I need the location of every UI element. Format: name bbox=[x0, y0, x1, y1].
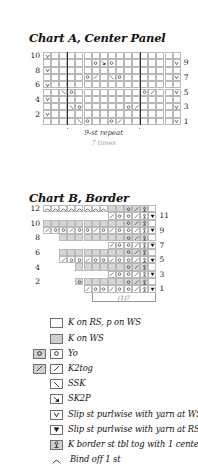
chart-cell-k bbox=[100, 81, 108, 88]
chart-cell-none bbox=[51, 278, 59, 285]
chart-cell-k bbox=[43, 118, 51, 125]
chart-cell-sk2p bbox=[100, 59, 108, 66]
chart-cell-k bbox=[51, 103, 59, 110]
chart-cell-kws bbox=[84, 234, 92, 241]
chart-cell-k bbox=[43, 103, 51, 110]
cell-symbol-yo bbox=[117, 286, 123, 291]
chart-cell-none bbox=[67, 285, 75, 292]
cell-symbol-sk2p bbox=[101, 60, 107, 65]
chart-cell-k2tog bbox=[132, 220, 140, 227]
cell-symbol-yo bbox=[101, 286, 107, 291]
chart-cell-k bbox=[156, 103, 164, 110]
chart-cell-yo bbox=[124, 103, 132, 110]
chart-cell-k bbox=[140, 67, 148, 74]
chart-cell-yo bbox=[75, 256, 83, 263]
cell-symbol-yo bbox=[93, 286, 99, 291]
chart-cell-k2tog bbox=[132, 242, 140, 249]
chart-cell-yo bbox=[124, 212, 132, 219]
chart-cell-k bbox=[67, 81, 75, 88]
chart-cell-k bbox=[108, 81, 116, 88]
chart-cell-k bbox=[165, 81, 173, 88]
cell-symbol-yo bbox=[141, 90, 147, 95]
chart-cell-ktbl bbox=[140, 234, 148, 241]
legend-label: Slip st purlwise with yarn at WS bbox=[68, 409, 198, 419]
chart-cell-k bbox=[84, 52, 92, 59]
chart-cell-k bbox=[84, 81, 92, 88]
chart-cell-k bbox=[148, 52, 156, 59]
legend-swatch-ssk bbox=[50, 379, 63, 389]
row-number-left: 8 bbox=[21, 67, 40, 74]
cell-symbol-slip-ws bbox=[174, 104, 180, 109]
chart-cell-k bbox=[124, 81, 132, 88]
repeat-boundary-line bbox=[140, 52, 141, 125]
chart-cell-none bbox=[92, 242, 100, 249]
cell-symbol-yo bbox=[117, 272, 123, 277]
cell-symbol-yo bbox=[125, 221, 131, 226]
chart-cell-k bbox=[156, 110, 164, 117]
chart-cell-yo bbox=[84, 227, 92, 234]
chart-cell-k bbox=[108, 89, 116, 96]
chart-cell-kws bbox=[116, 249, 124, 256]
chart-cell-k2tog bbox=[132, 249, 140, 256]
cell-symbol-bindoff bbox=[52, 206, 58, 211]
cell-symbol-k2tog bbox=[109, 257, 115, 262]
chart-cell-yo bbox=[67, 256, 75, 263]
repeat-label: 9-st repeat bbox=[67, 129, 140, 137]
chart-cell-k bbox=[92, 81, 100, 88]
chart-cell-kws bbox=[84, 220, 92, 227]
legend-item: K on WS bbox=[0, 331, 198, 346]
cell-symbol-k2tog bbox=[44, 228, 50, 233]
chart-cell-yo bbox=[124, 278, 132, 285]
chart-cell-yo bbox=[140, 89, 148, 96]
row-number-right: 5 bbox=[159, 256, 173, 263]
chart-cell-k2tog bbox=[84, 285, 92, 292]
legend-symbol-ssk bbox=[51, 380, 62, 388]
chart-cell-k bbox=[124, 74, 132, 81]
chart-cell-kws bbox=[67, 234, 75, 241]
chart-cell-ktbl bbox=[140, 227, 148, 234]
repeat-sublabel: 7 times bbox=[67, 139, 140, 147]
legend-swatch-slip-ws bbox=[50, 410, 63, 420]
chart-cell-kws bbox=[59, 234, 67, 241]
cell-symbol-yo bbox=[125, 213, 131, 218]
chart-cell-ktbl bbox=[140, 212, 148, 219]
chart-cell-yo bbox=[84, 74, 92, 81]
chart-cell-slip-ws bbox=[43, 96, 51, 103]
chart-cell-ktbl bbox=[140, 263, 148, 270]
chart-cell-k2tog bbox=[148, 89, 156, 96]
chart-cell-k bbox=[67, 110, 75, 117]
chart-cell-k bbox=[148, 110, 156, 117]
cell-symbol-k2tog bbox=[133, 228, 139, 233]
chart-cell-yo bbox=[67, 89, 75, 96]
chart-cell-k bbox=[140, 74, 148, 81]
chart-cell-ssk bbox=[75, 118, 83, 125]
row-number-right: 9 bbox=[159, 227, 173, 234]
chart-cell-yo bbox=[124, 220, 132, 227]
chart-cell-kws bbox=[116, 220, 124, 227]
chart-cell-k bbox=[75, 110, 83, 117]
cell-symbol-yo bbox=[117, 213, 123, 218]
chart-cell-k2tog bbox=[132, 263, 140, 270]
chart-cell-k bbox=[100, 110, 108, 117]
row-number-left: 6 bbox=[21, 81, 40, 88]
chart-cell-k bbox=[156, 96, 164, 103]
chart-cell-k2tog bbox=[132, 256, 140, 263]
row-number-right: 9 bbox=[184, 59, 198, 66]
cell-symbol-k2tog bbox=[133, 286, 139, 291]
cell-symbol-yo bbox=[52, 228, 58, 233]
chart-cell-k bbox=[156, 74, 164, 81]
chart-cell-slip-ws bbox=[173, 89, 181, 96]
chart-cell-k2tog bbox=[132, 205, 140, 212]
cell-symbol-ssk bbox=[76, 119, 82, 124]
chart-cell-k bbox=[75, 59, 83, 66]
chart-cell-yo bbox=[51, 227, 59, 234]
chart-cell-k bbox=[75, 67, 83, 74]
chart-cell-kws bbox=[108, 278, 116, 285]
legend-item: SSK bbox=[0, 377, 198, 392]
chart-cell-yo bbox=[116, 285, 124, 292]
chart-cell-k bbox=[116, 81, 124, 88]
legend-label: Yo bbox=[68, 348, 78, 358]
chart-cell-k2tog bbox=[132, 278, 140, 285]
legend-symbol-bindoff bbox=[50, 455, 63, 465]
chart-cell-yo bbox=[124, 227, 132, 234]
